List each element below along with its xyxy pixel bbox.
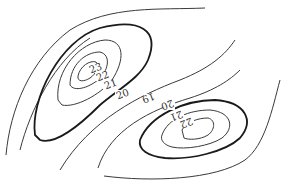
contour-20-lower-right xyxy=(140,100,247,158)
contour-line-outer-right xyxy=(104,80,280,179)
label-20-upper: 20 xyxy=(115,87,131,102)
contour-map: 23 22 21 20 19 20 21 22 xyxy=(0,0,286,186)
label-19: 19 xyxy=(141,91,157,106)
contour-line-left-2 xyxy=(20,38,90,150)
